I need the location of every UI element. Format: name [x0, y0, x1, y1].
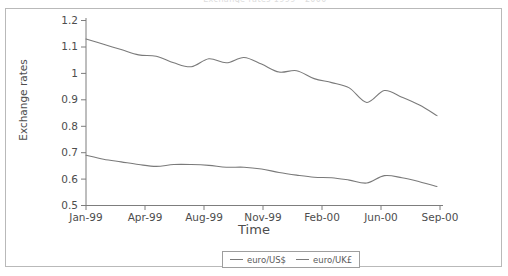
- y-tick-label: 1.1: [52, 40, 78, 52]
- x-tick-label: Sep-00: [410, 211, 470, 223]
- series-line-euro-gbp: [86, 155, 437, 186]
- y-tick-label: 1.2: [52, 14, 78, 26]
- y-tick-label: 0.5: [52, 199, 78, 211]
- y-tick-label: 1: [52, 67, 78, 79]
- legend-label: euro/US$: [247, 255, 286, 265]
- y-tick-label: 0.9: [52, 93, 78, 105]
- y-axis-title: Exchange rates: [17, 55, 29, 145]
- y-tick-label: 0.8: [52, 120, 78, 132]
- legend-item-euro-usd: euro/US$: [230, 255, 286, 265]
- legend-label: euro/UK£: [313, 255, 352, 265]
- series-line-euro-usd: [86, 39, 437, 116]
- x-tick-label: Apr-99: [115, 211, 175, 223]
- chart-legend: euro/US$ euro/UK£: [222, 251, 360, 268]
- x-tick-label: Jan-99: [56, 211, 116, 223]
- y-tick-label: 0.6: [52, 173, 78, 185]
- legend-line-icon: [230, 259, 243, 260]
- legend-item-euro-gbp: euro/UK£: [296, 255, 352, 265]
- legend-line-icon: [296, 259, 309, 260]
- y-tick-marks: [81, 21, 86, 206]
- x-tick-marks: [86, 206, 440, 211]
- y-tick-label: 0.7: [52, 146, 78, 158]
- x-axis-title: Time: [194, 222, 314, 237]
- x-tick-label: Jun-00: [351, 211, 411, 223]
- chart-figure: Exchange rates 1999 - 2000: [0, 0, 508, 276]
